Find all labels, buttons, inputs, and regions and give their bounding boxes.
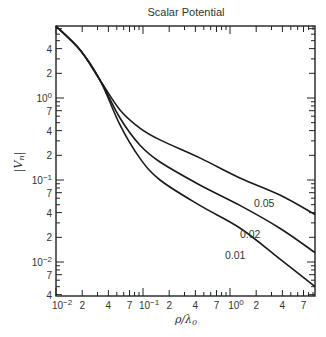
tick-label: 7 (214, 300, 220, 311)
tick-label: 2 (253, 300, 259, 311)
chart: Scalar Potential 10−224710−1247100247 42… (0, 0, 326, 337)
curves (56, 26, 315, 287)
y-axis-title: |Vn| (12, 152, 26, 173)
tick-label: 10−2 (52, 298, 73, 311)
tick-label: 10−1 (32, 173, 53, 186)
tick-label: 4 (46, 126, 52, 137)
y-axis: 4210074210−174210−274 (32, 29, 315, 301)
tick-label: 4 (106, 300, 112, 311)
chart-title: Scalar Potential (147, 6, 224, 18)
curve-0.02 (56, 26, 315, 253)
tick-label: 2 (46, 68, 52, 79)
tick-label: 7 (127, 300, 133, 311)
tick-label: 7 (46, 188, 52, 199)
tick-label: 7 (46, 106, 52, 117)
tick-label: 2 (46, 150, 52, 161)
tick-label: 100 (228, 298, 244, 311)
tick-label: 4 (46, 290, 52, 301)
tick-label: 2 (166, 300, 172, 311)
tick-label: 7 (301, 300, 307, 311)
curve-label: 0.05 (254, 197, 275, 209)
tick-label: 2 (79, 300, 85, 311)
tick-label: 10−1 (139, 298, 160, 311)
curve-0.05 (56, 26, 315, 214)
x-axis: 10−224710−1247100247 (52, 26, 313, 311)
tick-label: 4 (280, 300, 286, 311)
tick-label: 4 (193, 300, 199, 311)
tick-label: 100 (36, 91, 52, 104)
tick-label: 2 (46, 232, 52, 243)
curve-label: 0.02 (240, 228, 261, 240)
tick-label: 7 (46, 270, 52, 281)
x-axis-title: ρ/λ0 (174, 313, 197, 327)
curve-labels: 0.050.020.01 (225, 197, 275, 261)
curve-0.01 (56, 26, 315, 287)
curve-label: 0.01 (225, 249, 246, 261)
tick-label: 4 (46, 208, 52, 219)
tick-label: 4 (46, 44, 52, 55)
tick-label: 10−2 (32, 255, 53, 268)
